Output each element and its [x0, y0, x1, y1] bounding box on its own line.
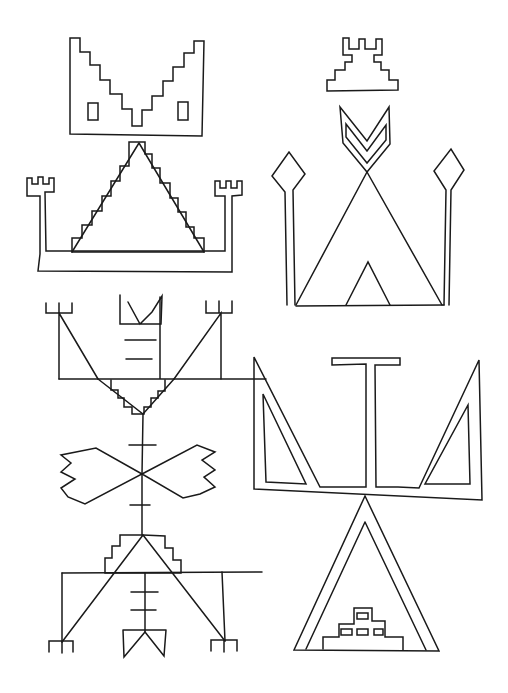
- mirrored-totem-stroke: [62, 535, 225, 642]
- mirrored-totem-stroke: [206, 301, 232, 313]
- chevron-tipi-with-diamond-staffs-figure: [272, 107, 464, 306]
- mirrored-totem-stroke: [62, 572, 262, 573]
- chevron-tipi-with-diamond-staffs-stroke: [346, 262, 390, 305]
- mirrored-totem-stroke: [211, 640, 237, 652]
- t-staff-with-triangle-wings-stroke: [374, 629, 383, 635]
- t-staff-with-triangle-wings-figure: [254, 357, 482, 651]
- chevron-tipi-with-diamond-staffs-stroke: [434, 149, 464, 305]
- chevron-tipi-with-diamond-staffs-stroke: [296, 172, 442, 305]
- mirrored-totem-stroke: [142, 414, 143, 474]
- t-staff-with-triangle-wings-stroke: [341, 629, 352, 635]
- drawing-canvas: [0, 0, 508, 693]
- mirrored-totem-stroke: [142, 445, 215, 498]
- stepped-v-bowl-figure: [70, 38, 204, 136]
- mirrored-totem-stroke: [111, 380, 165, 414]
- t-staff-with-triangle-wings-stroke: [357, 629, 368, 635]
- mirrored-totem-figure: [46, 295, 266, 657]
- stepped-v-bowl-stroke: [178, 102, 188, 120]
- stepped-pyramid-with-towers-stroke: [72, 142, 204, 252]
- chevron-tipi-with-diamond-staffs-stroke: [272, 152, 305, 305]
- mirrored-totem-stroke: [123, 630, 166, 657]
- mirrored-totem-stroke: [49, 641, 73, 653]
- mirrored-totem-stroke: [61, 448, 142, 504]
- t-staff-with-triangle-wings-stroke: [357, 613, 368, 619]
- stepped-v-bowl-stroke: [88, 103, 98, 120]
- t-staff-with-triangle-wings-stroke: [425, 405, 470, 484]
- mirrored-totem-stroke: [62, 572, 225, 642]
- stepped-pyramid-with-towers-figure: [27, 142, 242, 272]
- mirrored-totem-stroke: [125, 340, 156, 359]
- mirrored-totem-stroke: [105, 535, 181, 573]
- mirrored-totem-stroke: [98, 379, 174, 414]
- chevron-tipi-with-diamond-staffs-stroke: [296, 305, 444, 306]
- stepped-pyramid-with-towers-stroke: [27, 177, 242, 272]
- mirrored-totem-stroke: [46, 303, 72, 313]
- crowned-stepped-mound-stroke: [327, 38, 398, 91]
- mirrored-totem-stroke: [120, 295, 162, 324]
- crowned-stepped-mound-figure: [327, 38, 398, 91]
- stepped-pyramid-with-towers-stroke: [72, 143, 204, 252]
- t-staff-with-triangle-wings-stroke: [254, 357, 482, 500]
- symbol-drawing: [0, 0, 508, 693]
- stepped-v-bowl-stroke: [70, 38, 204, 136]
- t-staff-with-triangle-wings-stroke: [263, 394, 306, 484]
